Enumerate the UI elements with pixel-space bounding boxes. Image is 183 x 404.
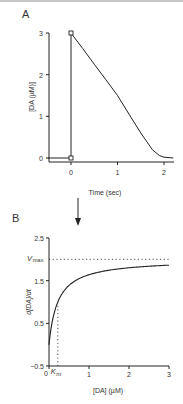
panel-a-xlabel: Time (sec) [89,189,122,197]
panel-b: −0.50.51.52.50123VmaxKm [27,235,171,378]
panel-label-a: A [22,8,30,20]
panel-a-xtick-label: 0 [69,169,73,176]
panel-b-xtick-label: 2 [127,371,131,378]
panel-b-ytick-label: 1.5 [34,278,44,285]
panel-b-ytick-label: 2.5 [34,235,44,242]
panel-b-ytick-label: 0.5 [34,320,44,327]
panel-a-series-stimulus [48,33,71,158]
panel-a-xtick-label: 1 [116,169,120,176]
down-arrow-icon [75,198,81,226]
panel-a-ylabel: [DA (µM)] [28,82,36,112]
panel-a-ytick-label: 1 [39,113,43,120]
panel-a-ytick-label: 2 [39,72,43,79]
panel-a: 0123012 [39,30,174,176]
panel-b-ylabel: d[DA]/dt [25,288,33,314]
figure: A 0123012 Time (sec) [DA (µM)] B −0.50.5… [0,0,183,404]
panel-a-xtick-label: 2 [162,169,166,176]
panel-label-b: B [12,212,19,224]
panel-a-marker [69,31,73,35]
panel-a-series-clearance [71,33,173,158]
panel-b-xtick-label: 0 [44,370,48,377]
panel-a-ytick-label: 0 [39,155,43,162]
panel-b-xtick-label: 3 [167,371,171,378]
vmax-subscript: max [33,257,44,263]
panel-b-xtick-label: 1 [87,371,91,378]
panel-b-series-michaelis-menten [49,265,169,345]
panel-a-marker [69,156,73,160]
panel-a-ytick-label: 3 [39,30,43,37]
panel-b-xlabel: [DA] (µM) [93,387,123,395]
panel-b-ytick-label: −0.5 [30,363,44,370]
km-subscript: m [56,371,61,377]
